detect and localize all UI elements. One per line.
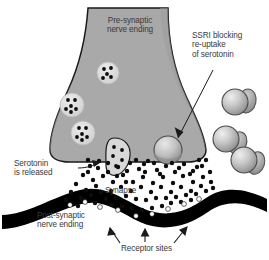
ssri-molecule	[222, 87, 258, 115]
vesicle	[97, 62, 119, 84]
ssri-molecule	[231, 147, 268, 177]
vesicle	[71, 121, 95, 145]
receptor-arrow-right	[174, 227, 187, 243]
label-synapse: Synapse	[105, 186, 165, 195]
label-ssri-blocking-reuptake: SSRI blocking re-uptake of serotonin	[192, 31, 268, 59]
label-postsynaptic-nerve-ending: Post-synaptic nerve ending	[37, 211, 113, 230]
diagram-canvas: Pre-synaptic nerve ending SSRI blocking …	[0, 0, 269, 260]
ssri-molecules	[213, 87, 268, 176]
receptor-arrows	[108, 227, 187, 243]
label-receptor-sites: Receptor sites	[121, 244, 191, 253]
receptor-arrow-middle	[142, 229, 149, 242]
vesicle	[60, 93, 84, 117]
reuptake-transporter	[154, 136, 182, 164]
label-serotonin-is-released: Serotonin is released	[14, 159, 78, 178]
receptor-arrow-left	[108, 228, 120, 243]
label-presynaptic-nerve-ending: Pre-synaptic nerve ending	[95, 16, 165, 35]
